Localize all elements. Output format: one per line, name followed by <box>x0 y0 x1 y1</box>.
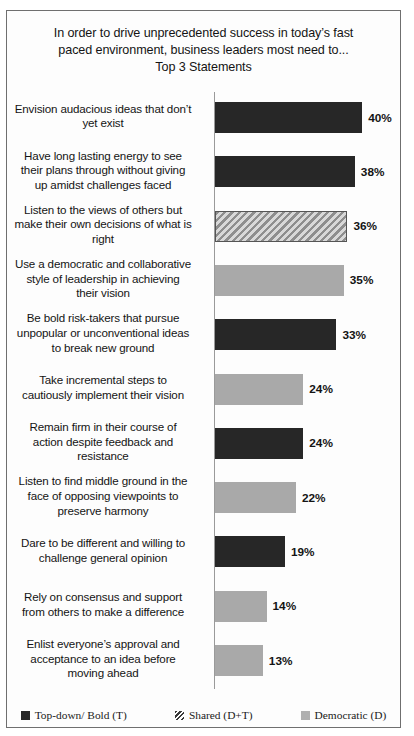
bar-category-label-line: Take incremental steps to <box>5 373 201 388</box>
bar-category-label-line: acceptance to an idea before <box>5 652 201 667</box>
bar-topdown[interactable] <box>215 102 362 133</box>
bar-row: Listen to the views of others butmake th… <box>7 200 400 254</box>
bar-wrap: 33% <box>215 319 366 350</box>
bar-row: Remain firm in their course ofaction des… <box>7 417 400 471</box>
bar-democratic[interactable] <box>215 374 303 405</box>
bar-category-label-line: Remain firm in their course of <box>5 420 201 435</box>
bar-value-label: 33% <box>342 328 366 342</box>
bar-category-label-line: challenge general opinion <box>5 551 201 566</box>
plot-area: Envision audacious ideas that don’tyet e… <box>7 91 400 691</box>
bar-wrap: 22% <box>215 482 326 513</box>
bar-wrap: 35% <box>215 265 373 296</box>
chart-title: In order to drive unprecedented success … <box>7 25 400 76</box>
bar-category-label-line: preserve harmony <box>5 504 201 519</box>
legend-item-shared[interactable]: Shared (D+T) <box>175 709 253 721</box>
legend-label: Democratic (D) <box>315 709 387 721</box>
bar-category-label-line: Listen to the views of others but <box>5 203 201 218</box>
legend-label: Top-down/ Bold (T) <box>35 709 127 721</box>
bar-category-label-line: face of opposing viewpoints to <box>5 489 201 504</box>
bar-category-label-line: their plans through without giving <box>5 163 201 178</box>
bar-category-label-line: action despite feedback and <box>5 435 201 450</box>
bar-value-label: 22% <box>302 491 326 505</box>
bar-category-label-line: right <box>5 232 201 247</box>
bar-category-label-line: make their own decisions of what is <box>5 217 201 232</box>
bar-category-label-line: unpopular or unconventional ideas <box>5 326 201 341</box>
bar-category-label-line: their vision <box>5 286 201 301</box>
bar-topdown[interactable] <box>215 536 285 567</box>
bar-category-label-line: Listen to find middle ground in the <box>5 474 201 489</box>
bar-category-label-line: resistance <box>5 449 201 464</box>
bar-category-label: Listen to the views of others butmake th… <box>5 203 201 247</box>
bar-row: Enlist everyone’s approval andacceptance… <box>7 634 400 688</box>
bar-row: Have long lasting energy to seetheir pla… <box>7 145 400 199</box>
bar-category-label: Take incremental steps tocautiously impl… <box>5 373 201 402</box>
bar-democratic[interactable] <box>215 482 296 513</box>
chart-legend: Top-down/ Bold (T)Shared (D+T)Democratic… <box>7 709 400 721</box>
bar-value-label: 35% <box>350 273 374 287</box>
bar-row: Envision audacious ideas that don’tyet e… <box>7 91 400 145</box>
chart-title-line-3: Top 3 Statements <box>7 59 400 76</box>
bar-value-label: 36% <box>353 219 377 233</box>
bar-category-label-line: Rely on consensus and support <box>5 590 201 605</box>
bar-category-label: Rely on consensus and supportfrom others… <box>5 590 201 619</box>
bar-wrap: 19% <box>215 536 315 567</box>
bar-category-label: Remain firm in their course ofaction des… <box>5 420 201 464</box>
bar-value-label: 24% <box>309 436 333 450</box>
bar-topdown[interactable] <box>215 428 303 459</box>
bar-democratic[interactable] <box>215 591 267 622</box>
bar-value-label: 14% <box>273 599 297 613</box>
bar-wrap: 24% <box>215 428 333 459</box>
bar-democratic[interactable] <box>215 645 263 676</box>
bar-value-label: 38% <box>361 165 385 179</box>
bar-wrap: 24% <box>215 374 333 405</box>
legend-swatch-icon <box>175 711 184 720</box>
chart-frame: In order to drive unprecedented success … <box>6 10 401 728</box>
bar-wrap: 40% <box>215 102 392 133</box>
legend-label: Shared (D+T) <box>189 709 253 721</box>
bar-row: Rely on consensus and supportfrom others… <box>7 580 400 634</box>
legend-item-topdown[interactable]: Top-down/ Bold (T) <box>21 709 127 721</box>
bar-value-label: 19% <box>291 545 315 559</box>
bar-category-label-line: yet exist <box>5 116 201 131</box>
bar-category-label-line: moving ahead <box>5 666 201 681</box>
bar-wrap: 38% <box>215 156 384 187</box>
bar-wrap: 13% <box>215 645 292 676</box>
bar-category-label: Dare to be different and willing tochall… <box>5 536 201 565</box>
bar-category-label-line: Envision audacious ideas that don’t <box>5 102 201 117</box>
bar-category-label-line: Use a democratic and collaborative <box>5 257 201 272</box>
bar-topdown[interactable] <box>215 156 355 187</box>
bar-category-label: Use a democratic and collaborativestyle … <box>5 257 201 301</box>
bar-row: Listen to find middle ground in theface … <box>7 471 400 525</box>
bar-row: Dare to be different and willing tochall… <box>7 525 400 579</box>
legend-swatch-icon <box>21 711 30 720</box>
bar-value-label: 40% <box>368 111 392 125</box>
bar-wrap: 36% <box>215 211 377 242</box>
bar-category-label-line: cautiously implement their vision <box>5 388 201 403</box>
bar-category-label-line: from others to make a difference <box>5 605 201 620</box>
bar-value-label: 24% <box>309 382 333 396</box>
bar-democratic[interactable] <box>215 265 344 296</box>
bar-category-label-line: Dare to be different and willing to <box>5 536 201 551</box>
bar-row: Take incremental steps tocautiously impl… <box>7 363 400 417</box>
bar-row: Use a democratic and collaborativestyle … <box>7 254 400 308</box>
bar-category-label-line: up amidst challenges faced <box>5 178 201 193</box>
bar-category-label-line: Enlist everyone’s approval and <box>5 637 201 652</box>
bar-value-label: 13% <box>269 654 293 668</box>
legend-swatch-icon <box>301 711 310 720</box>
bar-wrap: 14% <box>215 591 296 622</box>
legend-item-democratic[interactable]: Democratic (D) <box>301 709 387 721</box>
bar-category-label: Enlist everyone’s approval andacceptance… <box>5 637 201 681</box>
chart-title-line-2: paced environment, business leaders most… <box>7 42 400 59</box>
bar-category-label: Have long lasting energy to seetheir pla… <box>5 149 201 193</box>
bar-category-label: Listen to find middle ground in theface … <box>5 474 201 518</box>
bar-category-label: Envision audacious ideas that don’tyet e… <box>5 102 201 131</box>
bar-topdown[interactable] <box>215 319 336 350</box>
chart-title-line-1: In order to drive unprecedented success … <box>7 25 400 42</box>
bar-category-label-line: Be bold risk-takers that pursue <box>5 311 201 326</box>
bar-category-label-line: to break new ground <box>5 341 201 356</box>
bar-category-label: Be bold risk-takers that pursueunpopular… <box>5 311 201 355</box>
bar-category-label-line: Have long lasting energy to see <box>5 149 201 164</box>
bar-category-label-line: style of leadership in achieving <box>5 272 201 287</box>
bar-shared[interactable] <box>215 211 347 242</box>
bar-row: Be bold risk-takers that pursueunpopular… <box>7 308 400 362</box>
